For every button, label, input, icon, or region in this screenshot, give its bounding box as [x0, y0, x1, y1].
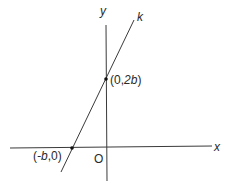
- x-axis-label: x: [214, 141, 220, 153]
- y-intercept-label-var: 2b: [124, 73, 137, 87]
- x-intercept-label: (-b,0): [33, 150, 62, 162]
- origin-label: O: [94, 153, 103, 165]
- point-x-intercept: [70, 146, 74, 150]
- point-y-intercept: [104, 77, 108, 81]
- y-axis: [106, 25, 107, 181]
- x-intercept-label-var: -b: [37, 149, 48, 163]
- y-intercept-label-prefix: (0,: [110, 73, 124, 87]
- line-k-label: k: [137, 11, 143, 23]
- y-axis-label: y: [100, 5, 106, 17]
- x-axis: [10, 146, 212, 148]
- y-intercept-label: (0,2b): [110, 74, 141, 86]
- y-intercept-label-suffix: ): [137, 73, 141, 87]
- x-intercept-label-suffix: ,0): [48, 149, 62, 163]
